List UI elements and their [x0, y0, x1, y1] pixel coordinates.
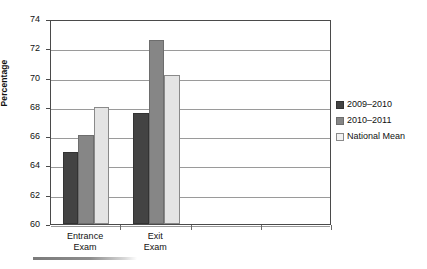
legend-label: 2010–2011	[347, 116, 391, 125]
plot-area	[50, 20, 331, 225]
legend-label: 2009–2010	[347, 100, 392, 109]
y-axis-title: Percentage	[0, 38, 9, 128]
y-tick-label: 74	[10, 15, 40, 24]
bar	[94, 107, 110, 224]
legend-item[interactable]: 2009–2010	[336, 97, 427, 112]
y-tick-mark	[46, 225, 50, 226]
y-tick-label: 60	[10, 220, 40, 229]
x-category-label-line: Exam	[115, 242, 195, 253]
y-tick-label: 70	[10, 74, 40, 83]
x-tick-mark	[120, 225, 121, 230]
y-tick-label: 72	[10, 44, 40, 53]
legend-label: National Mean	[347, 132, 405, 141]
gridline	[51, 109, 330, 110]
legend-swatch	[336, 117, 344, 125]
y-tick-label: 66	[10, 132, 40, 141]
legend-item[interactable]: 2010–2011	[336, 113, 427, 128]
bar	[149, 40, 165, 225]
x-category-label: ExitExam	[115, 231, 195, 252]
x-category-label: EntranceExam	[45, 231, 125, 252]
x-category-label-line: Exit	[115, 231, 195, 242]
x-tick-mark	[261, 225, 262, 230]
y-tick-label: 62	[10, 191, 40, 200]
bottom-divider-rule	[33, 257, 137, 260]
legend-swatch	[336, 133, 344, 141]
x-tick-mark	[191, 225, 192, 230]
x-category-label-line: Entrance	[45, 231, 125, 242]
y-tick-label: 68	[10, 103, 40, 112]
x-category-label-line: Exam	[45, 242, 125, 253]
gridline	[51, 80, 330, 81]
legend-item[interactable]: National Mean	[336, 129, 427, 144]
bar-chart-figure: Percentage 6062646668707274 EntranceExam…	[0, 0, 427, 269]
bar	[164, 75, 180, 224]
chart-legend: 2009–20102010–2011National Mean	[336, 97, 427, 145]
bar	[63, 152, 79, 224]
bar	[78, 135, 94, 224]
bar	[133, 113, 149, 224]
y-tick-label: 64	[10, 161, 40, 170]
x-tick-mark	[331, 225, 332, 230]
gridline	[51, 50, 330, 51]
legend-swatch	[336, 101, 344, 109]
